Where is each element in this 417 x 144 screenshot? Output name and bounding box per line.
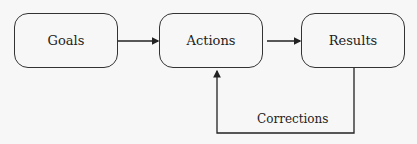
node-goals-label: Goals <box>48 33 85 48</box>
node-goals: Goals <box>14 13 118 68</box>
node-actions-label: Actions <box>187 33 236 48</box>
node-results-label: Results <box>329 33 378 48</box>
edge-label-corrections: Corrections <box>257 112 328 126</box>
node-actions: Actions <box>159 13 263 68</box>
node-results: Results <box>301 13 405 68</box>
